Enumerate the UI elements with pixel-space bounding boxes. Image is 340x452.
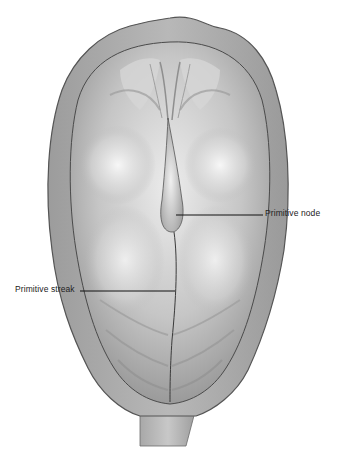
embryonic-disc-illustration	[0, 0, 340, 452]
label-primitive-streak: Primitive streak	[15, 284, 75, 294]
label-primitive-node: Primitive node	[265, 208, 320, 218]
